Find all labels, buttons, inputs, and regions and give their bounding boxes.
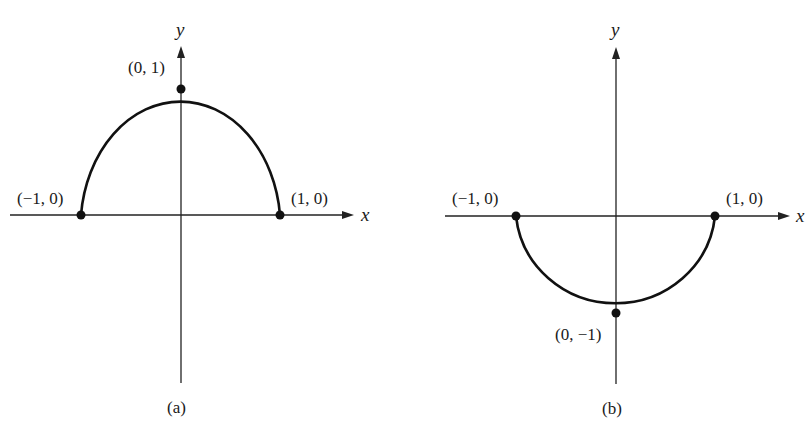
point-1-0-a (276, 211, 285, 220)
point-label-1-0-b: (1, 0) (726, 189, 763, 208)
point-0-neg1-b (612, 309, 621, 318)
caption-a: (a) (167, 398, 186, 417)
point-label-0-1-a: (0, 1) (128, 58, 165, 77)
x-axis-label-a: x (360, 204, 370, 225)
point-label-neg1-0-a: (−1, 0) (17, 189, 63, 208)
panel-b: x y (−1, 0) (0, −1) (1, 0) (b) (445, 19, 805, 418)
point-label-1-0-a: (1, 0) (291, 189, 328, 208)
figure-canvas: x y (−1, 0) (0, 1) (1, 0) (a) x y (0, 0, 810, 436)
point-neg1-0-a (77, 211, 86, 220)
x-axis-arrow-icon-a (342, 211, 354, 219)
caption-b: (b) (602, 399, 622, 418)
panel-a: x y (−1, 0) (0, 1) (1, 0) (a) (10, 19, 370, 417)
point-0-1-a (177, 85, 186, 94)
x-axis-arrow-icon-b (778, 212, 790, 220)
point-label-neg1-0-b: (−1, 0) (452, 189, 498, 208)
x-axis-label-b: x (795, 205, 805, 226)
point-1-0-b (711, 212, 720, 221)
point-label-0-neg1-b: (0, −1) (555, 325, 601, 344)
y-axis-arrow-icon-a (177, 46, 185, 58)
y-axis-arrow-icon-b (612, 47, 620, 59)
point-neg1-0-b (512, 212, 521, 221)
y-axis-label-b: y (609, 19, 620, 40)
y-axis-label-a: y (174, 19, 185, 40)
